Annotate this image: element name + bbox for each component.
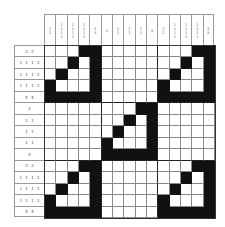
grid-cell[interactable] (90, 92, 101, 103)
grid-cell[interactable] (170, 149, 181, 160)
grid-cell[interactable] (124, 172, 135, 183)
grid-cell[interactable] (204, 149, 215, 160)
grid-cell[interactable] (113, 161, 124, 172)
grid-cell[interactable] (136, 195, 147, 206)
grid-cell[interactable] (68, 172, 79, 183)
grid-cell[interactable] (79, 149, 90, 160)
grid-cell[interactable] (136, 126, 147, 137)
grid-cell[interactable] (181, 138, 192, 149)
grid-cell[interactable] (192, 161, 203, 172)
grid-cell[interactable] (68, 126, 79, 137)
grid-cell[interactable] (45, 149, 56, 160)
grid-cell[interactable] (68, 92, 79, 103)
grid-cell[interactable] (204, 195, 215, 206)
grid-cell[interactable] (170, 195, 181, 206)
grid-cell[interactable] (79, 184, 90, 195)
grid-cell[interactable] (79, 103, 90, 114)
grid-cell[interactable] (56, 46, 67, 57)
grid-cell[interactable] (181, 126, 192, 137)
grid-cell[interactable] (90, 115, 101, 126)
grid-cell[interactable] (170, 46, 181, 57)
grid-cell[interactable] (147, 195, 158, 206)
grid-cell[interactable] (170, 115, 181, 126)
grid-cell[interactable] (113, 92, 124, 103)
grid-cell[interactable] (68, 103, 79, 114)
grid-cell[interactable] (79, 92, 90, 103)
grid-cell[interactable] (45, 57, 56, 68)
grid-cell[interactable] (181, 172, 192, 183)
grid-cell[interactable] (113, 138, 124, 149)
grid-cell[interactable] (170, 184, 181, 195)
grid-cell[interactable] (204, 103, 215, 114)
grid-cell[interactable] (102, 126, 113, 137)
grid-cell[interactable] (56, 115, 67, 126)
grid-cell[interactable] (79, 126, 90, 137)
grid-cell[interactable] (170, 103, 181, 114)
grid-cell[interactable] (147, 103, 158, 114)
grid-cell[interactable] (124, 46, 135, 57)
grid-cell[interactable] (181, 46, 192, 57)
grid-cell[interactable] (192, 172, 203, 183)
grid-cell[interactable] (90, 138, 101, 149)
grid-cell[interactable] (136, 184, 147, 195)
grid-cell[interactable] (181, 195, 192, 206)
grid-cell[interactable] (181, 207, 192, 218)
grid-cell[interactable] (79, 46, 90, 57)
grid-cell[interactable] (158, 207, 169, 218)
grid-cell[interactable] (136, 161, 147, 172)
grid-cell[interactable] (45, 115, 56, 126)
grid-cell[interactable] (124, 57, 135, 68)
grid-cell[interactable] (136, 57, 147, 68)
grid-cell[interactable] (90, 184, 101, 195)
grid-cell[interactable] (158, 172, 169, 183)
grid-cell[interactable] (56, 69, 67, 80)
grid-cell[interactable] (170, 161, 181, 172)
grid-cell[interactable] (45, 195, 56, 206)
grid-cell[interactable] (204, 92, 215, 103)
grid-cell[interactable] (90, 103, 101, 114)
grid-cell[interactable] (45, 69, 56, 80)
grid-cell[interactable] (147, 207, 158, 218)
grid-cell[interactable] (90, 207, 101, 218)
grid-cell[interactable] (147, 172, 158, 183)
grid-cell[interactable] (158, 92, 169, 103)
grid-cell[interactable] (192, 92, 203, 103)
grid-cell[interactable] (68, 195, 79, 206)
grid-cell[interactable] (136, 46, 147, 57)
grid-cell[interactable] (181, 80, 192, 91)
grid-cell[interactable] (192, 103, 203, 114)
grid-cell[interactable] (79, 207, 90, 218)
grid-cell[interactable] (68, 46, 79, 57)
grid-cell[interactable] (113, 126, 124, 137)
grid-cell[interactable] (90, 149, 101, 160)
grid-cell[interactable] (170, 126, 181, 137)
grid-cell[interactable] (192, 149, 203, 160)
grid-cell[interactable] (56, 126, 67, 137)
grid-cell[interactable] (113, 184, 124, 195)
grid-cell[interactable] (192, 138, 203, 149)
grid-cell[interactable] (192, 69, 203, 80)
grid-cell[interactable] (102, 103, 113, 114)
grid-cell[interactable] (68, 57, 79, 68)
grid-cell[interactable] (147, 115, 158, 126)
grid-cell[interactable] (68, 184, 79, 195)
grid-cell[interactable] (136, 92, 147, 103)
grid-cell[interactable] (113, 69, 124, 80)
grid-cell[interactable] (147, 126, 158, 137)
grid-cell[interactable] (204, 126, 215, 137)
grid-cell[interactable] (181, 115, 192, 126)
grid-cell[interactable] (170, 80, 181, 91)
grid-cell[interactable] (158, 161, 169, 172)
grid-cell[interactable] (113, 115, 124, 126)
grid-cell[interactable] (124, 103, 135, 114)
grid-cell[interactable] (158, 57, 169, 68)
grid-cell[interactable] (79, 80, 90, 91)
grid-cell[interactable] (192, 207, 203, 218)
grid-cell[interactable] (181, 161, 192, 172)
grid-cell[interactable] (45, 161, 56, 172)
grid-cell[interactable] (136, 138, 147, 149)
grid-cell[interactable] (90, 161, 101, 172)
grid-cell[interactable] (90, 172, 101, 183)
grid-cell[interactable] (124, 195, 135, 206)
grid-cell[interactable] (124, 207, 135, 218)
